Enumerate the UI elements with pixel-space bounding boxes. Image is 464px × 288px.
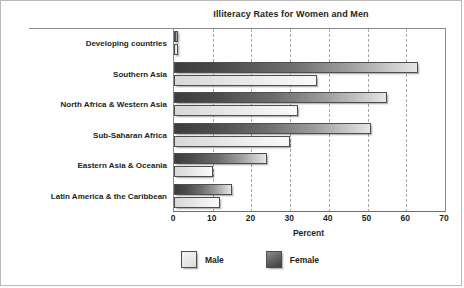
x-tick-label-0: 0 <box>171 213 176 223</box>
bar-female[interactable] <box>174 184 232 195</box>
bar-female[interactable] <box>174 153 267 164</box>
category-row: Eastern Asia & Oceania <box>1 150 463 181</box>
category-label: Developing countries <box>1 39 167 48</box>
bar-group <box>174 150 445 181</box>
chart-figure: Illiteracy Rates for Women and Men Devel… <box>0 0 462 286</box>
category-row: Latin America & the Caribbean <box>1 181 463 212</box>
bar-group <box>174 181 445 212</box>
bar-male[interactable] <box>174 44 178 55</box>
category-row: Southern Asia <box>1 59 463 90</box>
category-label: North Africa & Western Asia <box>1 100 167 109</box>
legend-label: Female <box>290 255 319 265</box>
bar-male[interactable] <box>174 105 298 116</box>
bar-female[interactable] <box>174 62 418 73</box>
bar-group <box>174 28 445 59</box>
category-label: Southern Asia <box>1 69 167 78</box>
bar-male[interactable] <box>174 75 317 86</box>
x-tick-label-20: 20 <box>246 213 255 223</box>
bar-male[interactable] <box>174 136 290 147</box>
category-label: Sub-Saharan Africa <box>1 130 167 139</box>
legend-label: Male <box>205 255 224 265</box>
x-tick-label-40: 40 <box>323 213 332 223</box>
bar-female[interactable] <box>174 92 387 103</box>
category-label: Latin America & the Caribbean <box>1 191 167 200</box>
category-rows: Developing countriesSouthern AsiaNorth A… <box>1 28 463 211</box>
x-tick-label-70: 70 <box>439 213 448 223</box>
bar-male[interactable] <box>174 166 213 177</box>
bar-group <box>174 89 445 120</box>
chart-legend: MaleFemale <box>1 251 463 268</box>
bar-group <box>174 120 445 151</box>
category-row: Developing countries <box>1 28 463 59</box>
x-tick-label-50: 50 <box>362 213 371 223</box>
legend-item-female[interactable]: Female <box>266 251 319 268</box>
bar-female[interactable] <box>174 31 178 42</box>
x-tick-label-10: 10 <box>207 213 216 223</box>
legend-item-male[interactable]: Male <box>181 251 224 268</box>
x-tick-label-30: 30 <box>284 213 293 223</box>
bar-male[interactable] <box>174 197 220 208</box>
x-axis-label: Percent <box>173 228 444 238</box>
category-row: Sub-Saharan Africa <box>1 120 463 151</box>
legend-swatch-female-icon <box>266 251 282 268</box>
chart-title: Illiteracy Rates for Women and Men <box>1 9 463 19</box>
category-row: North Africa & Western Asia <box>1 89 463 120</box>
x-axis-line <box>173 211 445 212</box>
bar-female[interactable] <box>174 123 371 134</box>
bar-group <box>174 59 445 90</box>
legend-swatch-male-icon <box>181 251 197 268</box>
category-label: Eastern Asia & Oceania <box>1 161 167 170</box>
x-tick-label-60: 60 <box>401 213 410 223</box>
x-axis-ticks: 010203040506070 <box>173 213 444 227</box>
